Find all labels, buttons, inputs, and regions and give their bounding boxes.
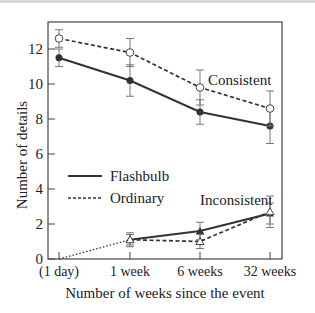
open-circle-marker xyxy=(196,84,204,92)
plot-frame xyxy=(48,22,282,259)
legend: Flashbulb Ordinary xyxy=(68,168,169,206)
open-circle-marker xyxy=(266,105,274,113)
open-circle-marker xyxy=(126,49,134,57)
open-circle-marker xyxy=(55,35,63,43)
filled-circle-marker xyxy=(197,109,204,116)
x-tick-label: 6 weeks xyxy=(177,264,223,279)
y-tick-label: 6 xyxy=(36,146,44,162)
x-axis-title: Number of weeks since the event xyxy=(65,285,265,301)
y-tick-label: 2 xyxy=(36,216,44,232)
y-tick-label: 10 xyxy=(28,76,43,92)
y-axis-title: Number of details xyxy=(14,101,30,209)
annotation-consistent: Consistent xyxy=(208,72,272,88)
open-triangle-marker xyxy=(266,208,274,215)
filled-circle-marker xyxy=(127,77,134,84)
series-line xyxy=(59,58,270,126)
series-line xyxy=(59,240,130,259)
legend-label-flashbulb: Flashbulb xyxy=(110,168,169,184)
plot-border xyxy=(48,22,282,259)
x-tick-label: 1 week xyxy=(110,264,150,279)
x-tick-label: (1 day) xyxy=(39,264,79,280)
legend-label-ordinary: Ordinary xyxy=(110,190,165,206)
line-chart: 024681012 (1 day)1 week6 weeks32 weeks F… xyxy=(0,0,315,313)
y-axis: 024681012 xyxy=(28,41,55,267)
x-tick-label: 32 weeks xyxy=(244,264,297,279)
y-tick-label: 4 xyxy=(36,181,44,197)
series-group xyxy=(55,30,274,259)
x-axis: (1 day)1 week6 weeks32 weeks xyxy=(39,252,296,280)
annotation-inconsistent: Inconsistent xyxy=(200,192,273,208)
y-tick-label: 12 xyxy=(28,41,43,57)
y-tick-label: 8 xyxy=(36,111,44,127)
filled-circle-marker xyxy=(56,54,63,61)
